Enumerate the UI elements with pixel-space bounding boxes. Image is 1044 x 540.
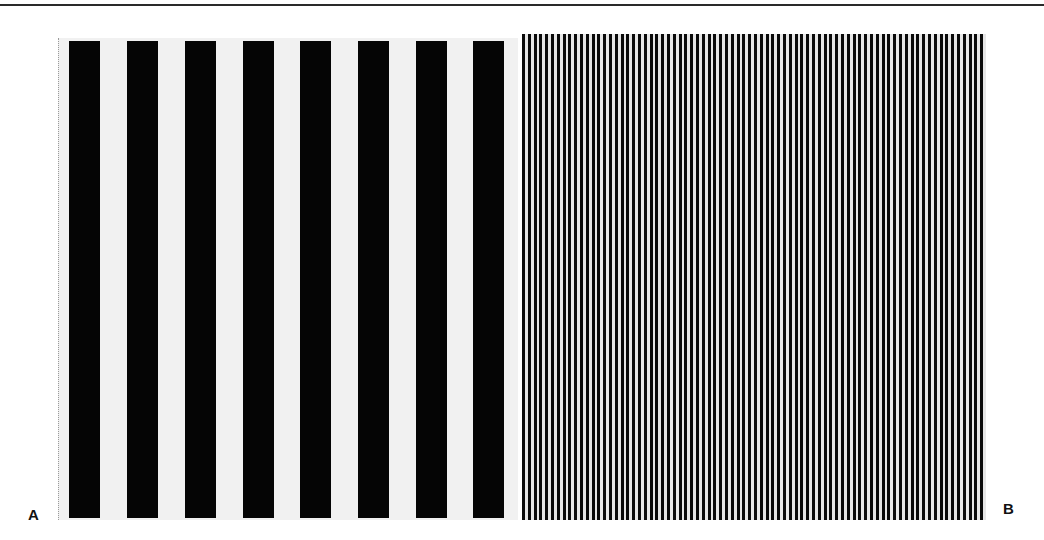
grating-bar	[300, 41, 331, 518]
panel-a-left-edge	[58, 38, 60, 520]
grating-bar	[243, 41, 274, 518]
grating-panel-a	[58, 38, 518, 520]
panel-label-a: A	[28, 506, 39, 523]
grating-bar	[416, 41, 447, 518]
grating-bar	[127, 41, 158, 518]
grating-panel-b	[522, 34, 986, 520]
grating-bar	[185, 41, 216, 518]
grating-bar	[473, 41, 504, 518]
grating-bar	[69, 41, 100, 518]
panel-label-b: B	[1003, 500, 1014, 517]
top-rule	[0, 4, 1044, 6]
grating-bar	[358, 41, 389, 518]
